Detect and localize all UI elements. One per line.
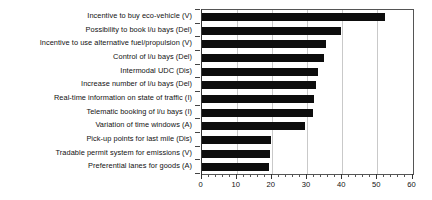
bar-row (202, 78, 413, 92)
x-axis-major-tick (412, 174, 413, 179)
x-axis-minor-tick (222, 174, 223, 177)
x-axis-minor-tick (362, 174, 363, 177)
x-axis-minor-tick (383, 174, 384, 177)
bar-row (202, 92, 413, 106)
bar (202, 27, 342, 35)
y-axis-tick (195, 159, 200, 160)
bar-row (202, 147, 413, 161)
bar (202, 40, 326, 48)
category-label: Incentive to use alternative fuel/propul… (0, 36, 196, 50)
x-axis-minor-tick (355, 174, 356, 177)
x-axis-minor-tick (229, 174, 230, 177)
y-axis-tick (195, 146, 200, 147)
x-axis-tick-label: 60 (407, 180, 415, 189)
y-axis-tick (195, 77, 200, 78)
x-axis-minor-tick (327, 174, 328, 177)
x-axis-minor-tick (313, 174, 314, 177)
x-axis-minor-tick (404, 174, 405, 177)
bar (202, 68, 318, 76)
y-axis-tick (195, 36, 200, 37)
bar (202, 122, 306, 130)
bar (202, 81, 317, 89)
x-axis-minor-tick (320, 174, 321, 177)
bar (202, 150, 271, 158)
bar (202, 163, 270, 171)
x-axis-tick-label: 0 (198, 180, 202, 189)
x-axis-major-tick (236, 174, 237, 179)
x-axis-tick-label: 20 (267, 180, 275, 189)
category-label: Control of l/u bays (Del) (0, 50, 196, 64)
y-axis-tick (195, 50, 200, 51)
y-axis-tick (195, 132, 200, 133)
x-axis-tick-label: 50 (372, 180, 380, 189)
x-axis-minor-tick (397, 174, 398, 177)
bar-row (202, 51, 413, 65)
category-label: Real-time information on state of traffi… (0, 91, 196, 105)
x-axis-tick-label: 10 (231, 180, 239, 189)
category-label: Possibility to book l/u bays (Del) (0, 23, 196, 37)
bar-row (202, 37, 413, 51)
category-label: Incentive to buy eco-vehicle (V) (0, 9, 196, 23)
x-axis-minor-tick (299, 174, 300, 177)
x-axis-major-tick (376, 174, 377, 179)
x-axis-major-tick (201, 174, 202, 179)
x-axis-minor-tick (250, 174, 251, 177)
x-axis-minor-tick (348, 174, 349, 177)
x-axis-tick-label: 30 (302, 180, 310, 189)
x-axis-minor-tick (278, 174, 279, 177)
y-axis-tick (195, 64, 200, 65)
bar (202, 13, 386, 21)
category-label: Pick-up points for last mile (Dis) (0, 132, 196, 146)
y-axis-tick (195, 91, 200, 92)
x-axis: 0102030405060 (201, 174, 412, 198)
x-axis-minor-tick (292, 174, 293, 177)
plot-area (201, 9, 414, 175)
bar (202, 54, 325, 62)
x-axis-minor-tick (243, 174, 244, 177)
x-axis-minor-tick (257, 174, 258, 177)
x-axis-minor-tick (285, 174, 286, 177)
category-label: Intermodal UDC (Dis) (0, 64, 196, 78)
bar-row (202, 160, 413, 174)
category-label: Increase number of l/u bays (Del) (0, 77, 196, 91)
category-axis-labels: Incentive to buy eco-vehicle (V)Possibil… (0, 9, 196, 173)
bars-layer (202, 10, 413, 174)
bar-row (202, 24, 413, 38)
x-axis-minor-tick (264, 174, 265, 177)
x-axis-major-tick (271, 174, 272, 179)
x-axis-major-tick (306, 174, 307, 179)
y-axis-tick (195, 9, 200, 10)
bar-row (202, 106, 413, 120)
x-axis-minor-tick (334, 174, 335, 177)
category-label: Tradable permit system for emissions (V) (0, 146, 196, 160)
bar (202, 136, 272, 144)
category-label: Variation of time windows (A) (0, 118, 196, 132)
x-axis-tick-label: 40 (337, 180, 345, 189)
y-axis-tick (195, 23, 200, 24)
y-axis-tick (195, 118, 200, 119)
category-label: Preferential lanes for goods (A) (0, 159, 196, 173)
x-axis-minor-tick (215, 174, 216, 177)
x-axis-major-tick (341, 174, 342, 179)
category-label: Telematic booking of l/u bays (I) (0, 105, 196, 119)
horizontal-bar-chart: Incentive to buy eco-vehicle (V)Possibil… (0, 0, 432, 200)
bar (202, 109, 314, 117)
x-axis-minor-tick (208, 174, 209, 177)
x-axis-minor-tick (390, 174, 391, 177)
y-axis-tick (195, 173, 200, 174)
bar-row (202, 10, 413, 24)
bar-row (202, 119, 413, 133)
bar (202, 95, 314, 103)
bar-row (202, 133, 413, 147)
x-axis-minor-tick (369, 174, 370, 177)
y-axis-tick (195, 105, 200, 106)
bar-row (202, 65, 413, 79)
